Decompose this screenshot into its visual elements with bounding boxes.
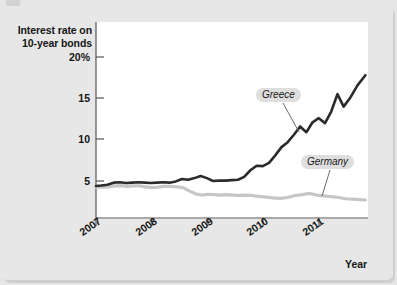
y-axis-title-line1: Interest rate on [4, 24, 92, 37]
y-axis-ticks [96, 57, 104, 181]
series-line-greece [96, 75, 365, 186]
y-tick-label-20: 20% [50, 51, 90, 63]
y-axis-title: Interest rate on 10-year bonds [4, 24, 92, 50]
series-label-greece: Greece [256, 88, 301, 102]
y-tick-label-15: 15 [50, 92, 90, 104]
figure-root: Interest rate on 10-year bonds 20% 15 10… [0, 0, 397, 285]
y-tick-label-10: 10 [50, 133, 90, 145]
y-axis-title-line2: 10-year bonds [4, 37, 92, 50]
annotation-leader-lines [283, 103, 330, 196]
series-label-germany: Germany [301, 155, 354, 169]
x-axis-title: Year [345, 258, 367, 270]
y-tick-label-5: 5 [50, 175, 90, 187]
page-artifact [6, 0, 20, 6]
